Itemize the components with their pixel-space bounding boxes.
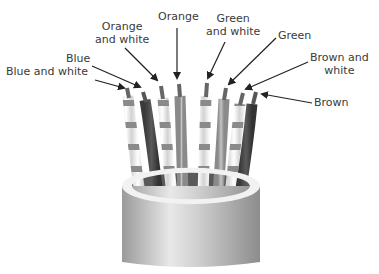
- wire-tip: [127, 88, 129, 98]
- arrows: [92, 28, 312, 103]
- wire-tip: [253, 92, 256, 104]
- wire-tip: [224, 88, 226, 100]
- cable-illustration: [0, 0, 379, 274]
- arrow-blue-white: [95, 80, 124, 88]
- arrow-green-white: [208, 42, 225, 78]
- wire-tip: [161, 86, 163, 99]
- arrow-green: [229, 38, 276, 84]
- wire-orange: [180, 96, 183, 195]
- wire-tip: [240, 93, 243, 105]
- arrow-brown-white: [246, 62, 308, 89]
- arrow-orange-white: [125, 48, 157, 80]
- wire-green: [218, 99, 224, 195]
- arrow-blue: [92, 66, 140, 87]
- wire-tip: [206, 83, 207, 97]
- wire-green-white: [203, 96, 206, 195]
- wire-tip: [179, 84, 180, 97]
- arrow-brown: [262, 94, 312, 103]
